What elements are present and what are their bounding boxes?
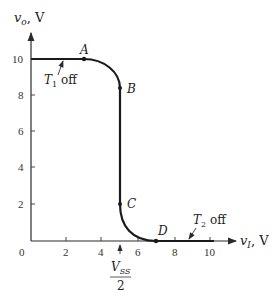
y-tick-label-2: 2 — [18, 198, 24, 210]
point-c-label: C — [127, 197, 136, 211]
x-tick-label-10: 10 — [204, 246, 216, 258]
t2-off-label: T2 off — [193, 213, 227, 229]
t1-off-label: T1 off — [44, 73, 78, 89]
x-tick-label-8: 8 — [172, 246, 178, 258]
y-axis-label: vo, V — [14, 10, 45, 27]
point-d-label: D — [157, 224, 168, 238]
point-a-label: A — [79, 43, 89, 57]
x-tick-label-6: 6 — [135, 246, 141, 258]
t2-off-pointer — [189, 228, 196, 239]
x-tick-label-4: 4 — [98, 246, 104, 258]
point-d-marker — [154, 239, 158, 243]
transfer-characteristic-diagram: vo, V vI, V 10 8 6 4 2 0 2 4 6 8 10 A B … — [0, 0, 274, 298]
point-b-marker — [118, 86, 122, 90]
y-tick-label-10: 10 — [12, 53, 24, 65]
point-a-marker — [82, 57, 86, 61]
y-tick-label-6: 6 — [18, 125, 24, 137]
y-tick-label-8: 8 — [18, 89, 24, 101]
vss-half-denominator: 2 — [117, 279, 125, 293]
origin-label: 0 — [19, 246, 25, 258]
x-axis-label: vI, V — [240, 233, 269, 250]
point-b-label: B — [126, 82, 136, 96]
point-c-marker — [118, 202, 122, 206]
vss-half-numerator: VSS — [111, 260, 131, 276]
x-tick-label-2: 2 — [63, 246, 69, 258]
y-tick-label-4: 4 — [18, 161, 24, 173]
